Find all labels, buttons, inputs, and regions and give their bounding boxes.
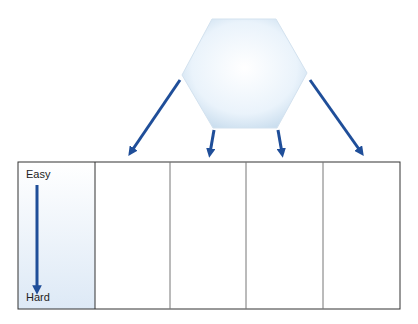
arrow-2 xyxy=(210,130,214,153)
arrow-3 xyxy=(278,130,282,153)
hexagon xyxy=(182,19,307,128)
scale-label-easy: Easy xyxy=(26,168,50,180)
scale-label-hard: Hard xyxy=(26,291,50,303)
arrow-1 xyxy=(131,80,180,152)
table xyxy=(18,162,400,309)
diagram-canvas xyxy=(0,0,418,324)
arrow-4 xyxy=(310,80,361,152)
